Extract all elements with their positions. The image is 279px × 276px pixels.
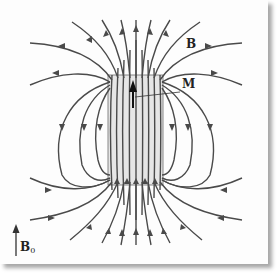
magnetization-label: M [182,77,195,91]
field-lines [30,20,242,245]
applied-field-label: B0 [20,240,35,255]
field-label: B [186,37,196,51]
applied-field-arrow-icon [13,224,20,256]
field-diagram: M B B0 [0,0,279,276]
